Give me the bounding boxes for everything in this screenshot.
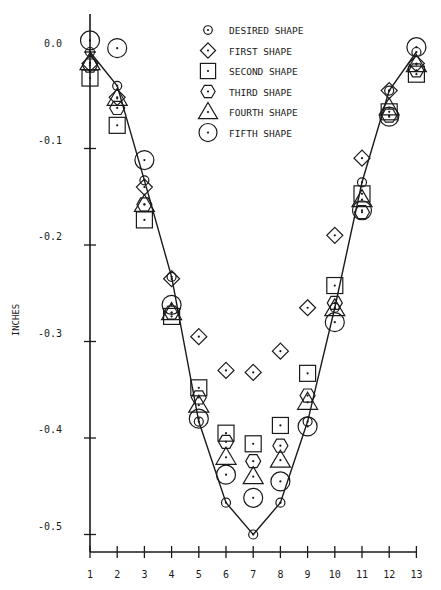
legend-label: FIFTH SHAPE (229, 128, 292, 139)
legend-label: DESIRED SHAPE (229, 25, 304, 36)
x-tick-label: 6 (223, 569, 229, 580)
x-tick-label: 1 (87, 569, 93, 580)
desired-shape-markers (86, 48, 421, 540)
y-tick-label: -0.5 (38, 521, 62, 532)
chart-canvas: 0.0-0.1-0.2-0.3-0.4-0.512345678910111213… (0, 0, 441, 590)
x-tick-label: 10 (329, 569, 341, 580)
y-tick-label: -0.2 (38, 231, 62, 242)
legend-item: SECOND SHAPE (200, 63, 298, 78)
x-tick-label: 5 (196, 569, 202, 580)
legend-item: FIFTH SHAPE (199, 123, 292, 141)
y-axis-title: INCHES (11, 304, 21, 337)
legend-label: FIRST SHAPE (229, 46, 292, 57)
legend-item: FOURTH SHAPE (199, 103, 298, 119)
legend-item: THIRD SHAPE (201, 85, 292, 97)
third-shape-markers (83, 59, 424, 468)
y-tick-label: -0.3 (38, 328, 62, 339)
y-tick-label: 0.0 (44, 38, 62, 49)
legend-item: DESIRED SHAPE (204, 25, 304, 36)
legend-item: FIRST SHAPE (200, 43, 292, 58)
axes: 0.0-0.1-0.2-0.3-0.4-0.512345678910111213 (38, 14, 423, 580)
y-tick-label: -0.1 (38, 135, 62, 146)
x-tick-label: 7 (250, 569, 256, 580)
x-tick-label: 13 (410, 569, 422, 580)
x-tick-label: 4 (169, 569, 175, 580)
legend-label: THIRD SHAPE (229, 87, 292, 98)
legend-label: FOURTH SHAPE (229, 107, 298, 118)
x-tick-label: 2 (114, 569, 120, 580)
first-shape-markers (82, 56, 424, 381)
y-tick-label: -0.4 (38, 424, 62, 435)
legend: DESIRED SHAPEFIRST SHAPESECOND SHAPETHIR… (199, 25, 304, 142)
x-tick-label: 12 (383, 569, 395, 580)
x-tick-label: 8 (277, 569, 283, 580)
x-tick-label: 9 (305, 569, 311, 580)
x-tick-label: 11 (356, 569, 368, 580)
second-shape-markers (82, 66, 424, 452)
x-tick-label: 3 (141, 569, 147, 580)
legend-label: SECOND SHAPE (229, 66, 298, 77)
